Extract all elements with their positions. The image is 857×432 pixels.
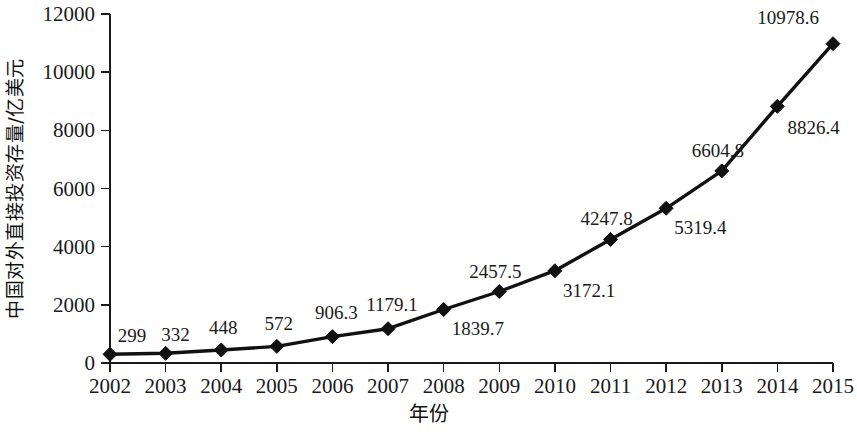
x-axis-tick-label: 2006 — [311, 374, 353, 398]
x-axis-tick-marks — [110, 363, 833, 372]
data-point-label: 2457.5 — [469, 261, 521, 282]
data-point-label: 5319.4 — [674, 217, 727, 238]
x-axis-tick-label: 2004 — [200, 374, 243, 398]
data-point-label: 906.3 — [315, 302, 358, 323]
y-axis-tick-marks — [101, 14, 110, 363]
data-point-marker — [381, 322, 395, 336]
data-point-label: 299 — [118, 325, 147, 346]
chart-figure: 中国对外直接投资存量/亿美元 0200040006000800010000120… — [0, 0, 857, 432]
x-axis-title: 年份 — [0, 398, 857, 427]
data-point-label: 332 — [161, 324, 190, 345]
data-point-marker — [437, 302, 451, 316]
chart-plot-area: 020004000600080001000012000 200220032004… — [0, 0, 857, 432]
data-point-label: 3172.1 — [563, 280, 615, 301]
y-axis-tick-label: 12000 — [43, 2, 96, 26]
data-point-label: 8826.4 — [787, 117, 840, 138]
data-point-label: 1179.1 — [366, 294, 418, 315]
data-point-label: 4247.8 — [580, 208, 632, 229]
x-axis-tick-label: 2002 — [89, 374, 131, 398]
x-axis-tick-label: 2015 — [812, 374, 854, 398]
x-axis-tick-label: 2003 — [145, 374, 187, 398]
data-point-label: 6604.8 — [692, 140, 744, 161]
data-point-marker — [103, 347, 117, 361]
x-axis-tick-label: 2009 — [478, 374, 520, 398]
y-axis-tick-label: 10000 — [43, 60, 96, 84]
data-series-line — [110, 44, 833, 355]
data-point-markers — [103, 37, 840, 362]
x-axis-tick-labels: 2002200320042005200620072008200920102011… — [89, 374, 854, 398]
y-axis-tick-label: 4000 — [53, 235, 95, 259]
x-axis-tick-label: 2007 — [367, 374, 409, 398]
x-axis-tick-label: 2011 — [590, 374, 631, 398]
x-axis-tick-label: 2013 — [701, 374, 743, 398]
data-point-labels: 299332448572906.31179.11839.72457.53172.… — [118, 7, 840, 347]
data-point-marker — [548, 264, 562, 278]
x-axis-title-text: 年份 — [409, 402, 449, 426]
x-axis-tick-label: 2008 — [423, 374, 465, 398]
data-point-label: 10978.6 — [757, 7, 819, 28]
data-point-label: 572 — [265, 313, 294, 334]
data-point-marker — [214, 343, 228, 357]
x-axis-tick-label: 2014 — [756, 374, 799, 398]
y-axis-tick-label: 2000 — [53, 293, 95, 317]
data-point-label: 448 — [209, 317, 238, 338]
data-point-label: 1839.7 — [452, 318, 504, 339]
y-axis-tick-label: 8000 — [53, 118, 95, 142]
data-point-marker — [325, 330, 339, 344]
x-axis-tick-label: 2005 — [256, 374, 298, 398]
x-axis-tick-label: 2012 — [645, 374, 687, 398]
y-axis-tick-label: 6000 — [53, 177, 95, 201]
x-axis-tick-label: 2010 — [534, 374, 576, 398]
y-axis-tick-label: 0 — [85, 351, 96, 375]
data-point-marker — [604, 232, 618, 246]
y-axis-tick-labels: 020004000600080001000012000 — [43, 2, 96, 375]
data-point-marker — [492, 285, 506, 299]
data-point-marker — [270, 339, 284, 353]
data-point-marker — [159, 346, 173, 360]
